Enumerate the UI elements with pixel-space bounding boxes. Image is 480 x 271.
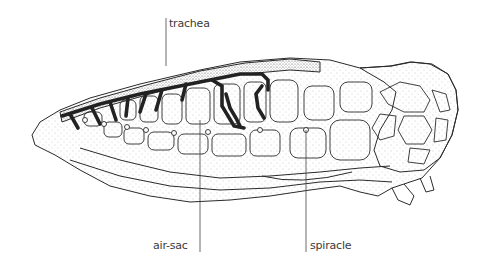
label-trachea: trachea: [169, 17, 210, 30]
diagram-canvas: trachea air-sac spiracle: [0, 0, 480, 271]
insect-tracheal-drawing: [0, 0, 480, 271]
label-spiracle: spiracle: [310, 239, 351, 252]
label-air-sac: air-sac: [153, 239, 188, 252]
